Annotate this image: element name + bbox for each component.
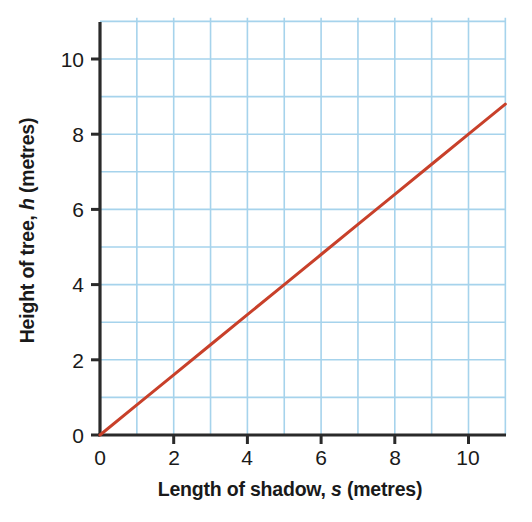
axis-ticks bbox=[91, 59, 469, 444]
axis-lines bbox=[98, 22, 506, 436]
data-line-0 bbox=[100, 104, 505, 435]
data-series bbox=[100, 104, 505, 435]
chart-figure: Height of tree, h (metres) 0 2 4 6 8 10 … bbox=[0, 0, 532, 522]
plot-area bbox=[0, 0, 532, 522]
gridlines bbox=[100, 18, 505, 435]
